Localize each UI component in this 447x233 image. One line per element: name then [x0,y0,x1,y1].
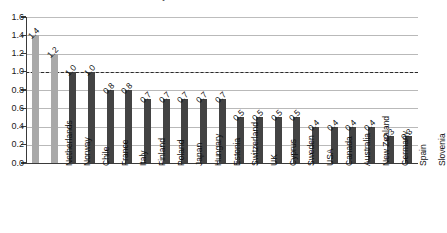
bar-value-norway: 1.2 [45,45,60,60]
category-label-uk: UK [270,154,278,166]
y-axis-label-0-4: 0.4 [0,122,24,131]
category-label-sweden: Sweden [307,135,315,166]
y-axis-label-0-0: 0.0 [0,159,24,168]
bar-netherlands [32,35,39,163]
bar-value-new-zealand: 0.4 [344,118,359,133]
bar-value-usa: 0.5 [288,109,303,124]
y-axis-line [26,17,27,163]
bar-value-japan: 0.7 [157,90,172,105]
category-label-finland: Finland [158,138,166,166]
bar-norway [51,54,58,164]
category-label-netherlands: Netherlands [65,120,73,166]
category-label-new-zealand: New Zealand [382,116,390,166]
bar-value-france: 1.0 [82,63,97,78]
bar-value-switzerland: 0.7 [213,90,228,105]
category-label-switzerland: Switzerland [251,122,259,166]
y-axis-label-1-6: 1.6 [0,13,24,22]
bar-value-germany: 0.4 [362,118,377,133]
category-label-norway: Norway [83,137,91,166]
category-label-canada: Canada [345,136,353,166]
bar-value-canada: 0.4 [306,118,321,133]
y-axis-label-1-4: 1.4 [0,31,24,40]
category-label-japan: Japan [195,143,203,166]
y-axis-label-1-2: 1.2 [0,49,24,58]
bar-value-netherlands: 1.4 [26,27,41,42]
bar-value-estonia: 0.7 [194,90,209,105]
category-label-italy: Italy [139,150,147,166]
bar-value-poland: 0.7 [138,90,153,105]
category-label-cyprus: Cyprus [289,139,297,166]
category-label-germany: Germany [401,131,409,166]
y-axis-label-0-6: 0.6 [0,104,24,113]
y-axis-label-0-8: 0.8 [0,86,24,95]
bar-value-sweden: 0.5 [269,109,284,124]
chart-title: the country as someone born in the 1980s… [0,0,420,2]
category-label-australia: Australia [363,133,371,166]
bar-value-hungary: 0.7 [176,90,191,105]
category-label-hungary: Hungary [214,134,222,166]
category-label-estonia: Estonia [233,138,241,166]
y-axis-label-1-0: 1.0 [0,67,24,76]
bar-value-chile: 1.0 [64,63,79,78]
category-label-france: France [121,140,129,166]
category-label-chile: Chile [102,147,110,166]
category-label-slovenia: Slovenia [438,133,446,166]
category-label-poland: Poland [177,140,185,166]
category-label-usa: USA [326,149,334,166]
bar-value-uk: 0.5 [232,109,247,124]
y-axis-label-0-2: 0.2 [0,140,24,149]
bar-value-italy: 0.8 [101,81,116,96]
bar-value-finland: 0.8 [120,81,135,96]
bar-value-australia: 0.4 [325,118,340,133]
category-label-spain: Spain [419,144,427,166]
